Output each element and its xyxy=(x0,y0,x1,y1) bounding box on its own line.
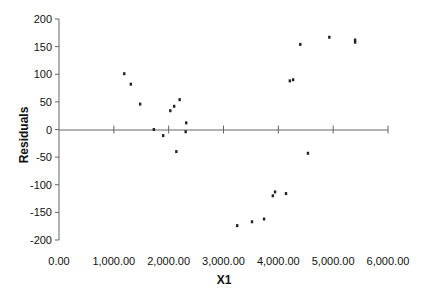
data-point xyxy=(272,194,274,197)
x-tick-label: 4,000.00 xyxy=(257,255,300,267)
data-point xyxy=(162,134,164,137)
y-tick-label: 50 xyxy=(40,96,52,108)
x-tick-label: 5,000.00 xyxy=(312,255,355,267)
data-point xyxy=(263,218,265,221)
y-axis: 200150100500-50-100-150-200 xyxy=(30,13,59,246)
data-point xyxy=(185,121,187,124)
data-point xyxy=(289,79,291,82)
y-tick-label: 200 xyxy=(34,13,52,25)
data-point xyxy=(292,78,294,81)
y-tick-label: 0 xyxy=(46,124,52,136)
x-tick-label: 0.00 xyxy=(48,255,69,267)
data-point xyxy=(285,192,287,195)
data-point xyxy=(169,109,171,112)
data-point xyxy=(139,103,141,106)
data-point xyxy=(354,41,356,44)
x-tick-label: 1,000.00 xyxy=(92,255,135,267)
data-point xyxy=(153,128,155,131)
y-tick-label: -50 xyxy=(36,151,52,163)
x-tick-label: 2,000.00 xyxy=(147,255,190,267)
data-point xyxy=(178,98,180,101)
data-point xyxy=(251,220,253,223)
residual-scatter-chart: 200150100500-50-100-150-200 0.001,000.00… xyxy=(0,0,422,294)
y-tick-label: -100 xyxy=(30,179,52,191)
y-axis-title: Residuals xyxy=(17,106,31,163)
data-point xyxy=(184,130,186,133)
data-point xyxy=(274,190,276,193)
y-tick-label: -150 xyxy=(30,206,52,218)
data-point xyxy=(175,150,177,153)
y-tick-label: -200 xyxy=(30,234,52,246)
x-axis-title: X1 xyxy=(217,273,232,287)
data-point xyxy=(130,83,132,86)
x-tick-label: 6,000.00 xyxy=(367,255,410,267)
y-tick-label: 100 xyxy=(34,68,52,80)
data-point xyxy=(299,43,301,46)
data-point xyxy=(328,36,330,39)
data-points xyxy=(123,36,356,227)
x-axis: 0.001,000.002,000.003,000.004,000.005,00… xyxy=(48,126,409,268)
y-tick-label: 150 xyxy=(34,41,52,53)
data-point xyxy=(236,224,238,227)
data-point xyxy=(123,72,125,75)
data-point xyxy=(307,152,309,155)
x-tick-label: 3,000.00 xyxy=(202,255,245,267)
data-point xyxy=(173,105,175,108)
